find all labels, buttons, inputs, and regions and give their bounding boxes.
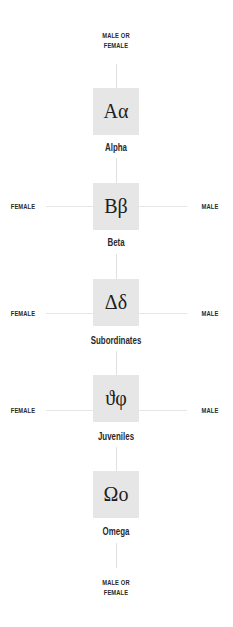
rank-label-alpha: Alpha xyxy=(87,141,145,153)
rank-box-omega: Ωο xyxy=(93,471,139,518)
connector-beta-subordinates xyxy=(116,254,117,279)
subordinates-symbol: Δδ xyxy=(105,291,127,314)
connector-juveniles-omega xyxy=(116,447,117,471)
subordinates-left-line xyxy=(46,313,93,314)
beta-right-label: MALE xyxy=(196,202,225,212)
connector-top xyxy=(116,64,117,88)
omega-symbol: Ωο xyxy=(104,483,129,506)
rank-label-beta: Beta xyxy=(87,236,145,248)
subordinates-right-label: MALE xyxy=(196,309,225,319)
rank-label-juveniles: Juveniles xyxy=(87,430,145,442)
rank-label-subordinates: Subordinates xyxy=(80,334,152,346)
juveniles-left-label: FEMALE xyxy=(9,406,38,416)
rank-box-subordinates: Δδ xyxy=(93,279,139,326)
juveniles-left-line xyxy=(46,410,93,411)
connector-bottom xyxy=(116,543,117,568)
subordinates-right-line xyxy=(139,313,187,314)
rank-box-alpha: Aα xyxy=(93,88,139,135)
alpha-symbol: Aα xyxy=(104,100,129,123)
beta-symbol: Bβ xyxy=(104,195,128,218)
bottom-sex-label: MALE OR FEMALE xyxy=(94,578,137,598)
juveniles-right-label: MALE xyxy=(196,406,225,416)
top-sex-label: MALE OR FEMALE xyxy=(94,31,137,51)
subordinates-left-label: FEMALE xyxy=(9,309,38,319)
bottom-sex-label-line1: MALE OR xyxy=(94,578,137,588)
juveniles-symbol: ϑφ xyxy=(105,387,126,410)
beta-left-label: FEMALE xyxy=(9,202,38,212)
rank-box-juveniles: ϑφ xyxy=(93,375,139,422)
top-sex-label-line1: MALE OR xyxy=(94,31,137,41)
beta-left-line xyxy=(46,206,93,207)
connector-subordinates-juveniles xyxy=(116,351,117,375)
connector-alpha-beta xyxy=(116,158,117,183)
top-sex-label-line2: FEMALE xyxy=(94,41,137,51)
juveniles-right-line xyxy=(139,410,187,411)
beta-right-line xyxy=(139,206,187,207)
rank-box-beta: Bβ xyxy=(93,183,139,230)
bottom-sex-label-line2: FEMALE xyxy=(94,588,137,598)
rank-label-omega: Omega xyxy=(87,525,145,537)
